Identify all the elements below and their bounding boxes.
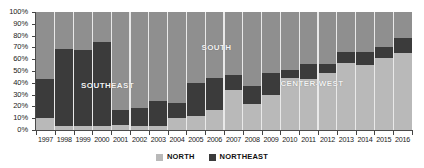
y-tick-label: 30% bbox=[13, 91, 28, 99]
bar-separator bbox=[242, 12, 243, 130]
bar-segment-north bbox=[36, 118, 55, 130]
x-tick-mark bbox=[318, 131, 319, 135]
bar-separator bbox=[299, 12, 300, 130]
bar-2015[interactable] bbox=[374, 12, 393, 130]
bar-2012[interactable] bbox=[318, 12, 337, 130]
bar-segment-other-regions bbox=[74, 12, 93, 50]
bar-segment-other-regions bbox=[356, 12, 375, 52]
bar-segment-northeast bbox=[168, 103, 187, 118]
bar-segment-other-regions bbox=[111, 12, 130, 110]
bar-2014[interactable] bbox=[356, 12, 375, 130]
bar-segment-north bbox=[337, 63, 356, 130]
legend-swatch-northeast bbox=[209, 154, 216, 161]
y-tick-label: 0% bbox=[17, 126, 28, 134]
bar-separator bbox=[223, 12, 224, 130]
x-tick-mark bbox=[337, 131, 338, 135]
bar-segment-northeast bbox=[243, 86, 262, 104]
x-tick-mark bbox=[130, 131, 131, 135]
bar-segment-north bbox=[74, 126, 93, 130]
bar-1997[interactable] bbox=[36, 12, 55, 130]
legend-label-northeast: NORTHEAST bbox=[220, 153, 268, 161]
x-tick-mark bbox=[55, 131, 56, 135]
y-tick-label: 90% bbox=[13, 20, 28, 28]
bar-segment-north bbox=[205, 110, 224, 130]
y-tick-label: 100% bbox=[9, 8, 28, 16]
bar-segment-other-regions bbox=[243, 12, 262, 86]
bar-separator bbox=[336, 12, 337, 130]
bar-separator bbox=[280, 12, 281, 130]
chart-legend: NORTH NORTHEAST bbox=[0, 150, 424, 164]
bar-separator bbox=[393, 12, 394, 130]
y-tick-label: 70% bbox=[13, 43, 28, 51]
x-tick-mark bbox=[243, 131, 244, 135]
bar-separator bbox=[73, 12, 74, 130]
bar-segment-north bbox=[393, 53, 412, 130]
bar-segment-other-regions bbox=[130, 12, 149, 108]
bar-separator bbox=[355, 12, 356, 130]
x-tick-mark bbox=[224, 131, 225, 135]
bar-2003[interactable] bbox=[149, 12, 168, 130]
bar-2009[interactable] bbox=[262, 12, 281, 130]
bar-segment-north bbox=[111, 125, 130, 130]
y-tick-label: 10% bbox=[13, 114, 28, 122]
bar-2016[interactable] bbox=[393, 12, 412, 130]
bar-1998[interactable] bbox=[55, 12, 74, 130]
bar-2011[interactable] bbox=[299, 12, 318, 130]
x-tick-mark bbox=[111, 131, 112, 135]
bar-2002[interactable] bbox=[130, 12, 149, 130]
bar-segment-north bbox=[224, 90, 243, 130]
bar-segment-other-regions bbox=[299, 12, 318, 64]
bar-segment-other-regions bbox=[393, 12, 412, 38]
y-tick-label: 20% bbox=[13, 102, 28, 110]
bar-segment-other-regions bbox=[262, 12, 281, 73]
bar-segment-northeast bbox=[393, 38, 412, 53]
bar-segment-north bbox=[356, 65, 375, 130]
bar-2001[interactable] bbox=[111, 12, 130, 130]
bar-segment-northeast bbox=[149, 101, 168, 127]
bar-segment-other-regions bbox=[92, 12, 111, 42]
region-label-south: SOUTH bbox=[201, 43, 231, 52]
bar-segment-northeast bbox=[205, 78, 224, 110]
x-tick-mark bbox=[92, 131, 93, 135]
region-label-center-west: CENTER-WEST bbox=[280, 79, 343, 88]
plot-area: SOUTHEASTSOUTHCENTER-WEST bbox=[36, 12, 412, 130]
legend-item-north[interactable]: NORTH bbox=[156, 153, 195, 161]
bar-2005[interactable] bbox=[186, 12, 205, 130]
x-tick-mark bbox=[412, 131, 413, 135]
x-tick-mark bbox=[280, 131, 281, 135]
y-tick-label: 60% bbox=[13, 55, 28, 63]
bar-segment-northeast bbox=[111, 110, 130, 125]
y-axis: 0%10%20%30%40%50%60%70%80%90%100% bbox=[0, 0, 36, 140]
bar-segment-other-regions bbox=[337, 12, 356, 52]
bar-segment-northeast bbox=[337, 52, 356, 63]
bar-separator bbox=[374, 12, 375, 130]
legend-item-northeast[interactable]: NORTHEAST bbox=[209, 153, 268, 161]
bar-separator bbox=[186, 12, 187, 130]
x-tick-mark bbox=[186, 131, 187, 135]
x-tick-mark bbox=[393, 131, 394, 135]
x-tick-mark bbox=[299, 131, 300, 135]
bar-separator bbox=[167, 12, 168, 130]
bar-1999[interactable] bbox=[74, 12, 93, 130]
bar-2008[interactable] bbox=[243, 12, 262, 130]
y-tick-label: 50% bbox=[13, 67, 28, 75]
bar-2007[interactable] bbox=[224, 12, 243, 130]
bar-segment-northeast bbox=[280, 70, 299, 78]
bar-segment-north bbox=[149, 126, 168, 130]
bar-2010[interactable] bbox=[280, 12, 299, 130]
bar-separator bbox=[111, 12, 112, 130]
bar-segment-other-regions bbox=[374, 12, 393, 47]
bar-segment-other-regions bbox=[280, 12, 299, 70]
bar-segment-north bbox=[55, 126, 74, 130]
bar-segment-north bbox=[92, 126, 111, 130]
bar-segment-north bbox=[168, 118, 187, 130]
bar-2000[interactable] bbox=[92, 12, 111, 130]
bar-segment-northeast bbox=[55, 49, 74, 127]
region-label-southeast: SOUTHEAST bbox=[81, 81, 134, 90]
bar-segment-north bbox=[243, 104, 262, 130]
bar-2004[interactable] bbox=[168, 12, 187, 130]
bar-2006[interactable] bbox=[205, 12, 224, 130]
bar-2013[interactable] bbox=[337, 12, 356, 130]
legend-label-north: NORTH bbox=[167, 153, 195, 161]
bar-segment-northeast bbox=[374, 47, 393, 58]
